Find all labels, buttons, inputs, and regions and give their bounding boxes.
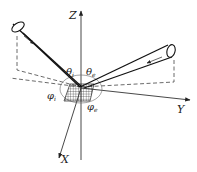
brdf-diagram: Z Y X θi θe φi φe [0,0,197,172]
y-axis [81,88,190,100]
z-axis-label: Z [68,9,77,22]
incident-tube-end [10,20,26,34]
y-axis-label: Y [177,103,186,116]
theta-i-label: θi [66,66,74,78]
phi-i-label: φi [47,90,56,102]
theta-e-label: θe [86,66,96,78]
x-axis-label: X [60,153,70,166]
reflected-beam [80,44,177,88]
phi-e-label: φe [87,101,98,113]
